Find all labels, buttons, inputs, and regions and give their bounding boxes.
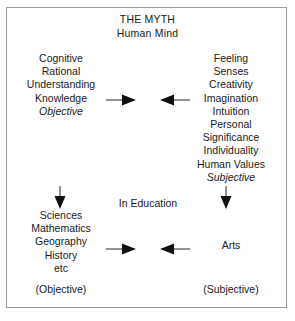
lower-left-label: (Objective)	[6, 283, 116, 296]
lower-left-item-geography: Geography	[6, 235, 116, 248]
upper-right-item-imagination: Imagination	[176, 92, 286, 105]
upper-left-item-understanding: Understanding	[6, 78, 116, 91]
upper-right-item-creativity: Creativity	[176, 78, 286, 91]
lower-left-column: Sciences Mathematics Geography History e…	[6, 209, 116, 275]
upper-right-item-feeling: Feeling	[176, 52, 286, 65]
arrow-down-icon	[55, 186, 66, 209]
lower-left-item-history: History	[6, 249, 116, 262]
upper-converging-arrows	[106, 93, 190, 107]
arrow-right-icon	[106, 95, 136, 106]
upper-right-item-individuality: Individuality	[176, 144, 286, 157]
lower-right-column: Arts	[176, 239, 286, 252]
upper-right-column: Feeling Senses Creativity Imagination In…	[176, 52, 286, 184]
lower-right-label: (Subjective)	[176, 283, 286, 296]
lower-left-item-sciences: Sciences	[6, 209, 116, 222]
upper-right-item-human-values: Human Values	[176, 158, 286, 171]
upper-right-item-significance: Significance	[176, 131, 286, 144]
diagram-canvas: THE MYTH Human Mind Cognitive Rational U…	[0, 0, 295, 321]
upper-right-item-subjective: Subjective	[176, 171, 286, 184]
lower-converging-arrows	[106, 242, 190, 256]
arrow-left-icon	[160, 95, 190, 106]
diagram-title: THE MYTH	[0, 12, 295, 26]
upper-right-item-senses: Senses	[176, 65, 286, 78]
diagram-title-block: THE MYTH Human Mind	[0, 12, 295, 40]
arrow-left-icon	[160, 244, 190, 255]
upper-left-column: Cognitive Rational Understanding Knowled…	[6, 52, 116, 118]
left-transition-arrow	[52, 186, 68, 210]
lower-right-item-arts: Arts	[176, 239, 286, 252]
upper-right-item-intuition: Intuition	[176, 105, 286, 118]
diagram-subtitle: Human Mind	[0, 26, 295, 40]
upper-left-item-rational: Rational	[6, 65, 116, 78]
arrow-down-icon	[221, 186, 232, 209]
lower-left-item-mathematics: Mathematics	[6, 222, 116, 235]
upper-right-item-personal: Personal	[176, 118, 286, 131]
right-transition-arrow	[218, 186, 234, 210]
upper-left-item-knowledge: Knowledge	[6, 92, 116, 105]
arrow-right-icon	[106, 244, 136, 255]
upper-left-item-cognitive: Cognitive	[6, 52, 116, 65]
upper-left-item-objective: Objective	[6, 105, 116, 118]
lower-left-item-etc: etc	[6, 262, 116, 275]
